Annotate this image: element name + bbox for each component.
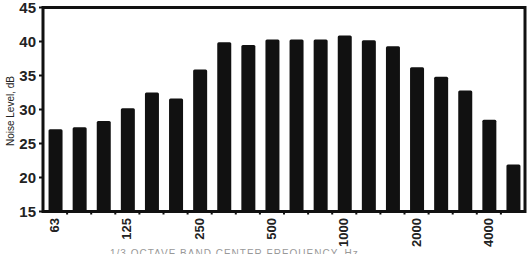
y-tick-label: 30 xyxy=(0,102,36,117)
x-tick-label: 63 xyxy=(48,218,62,254)
y-tick-label: 15 xyxy=(0,204,36,219)
bar xyxy=(73,127,87,211)
bar xyxy=(217,42,231,211)
plot-frame xyxy=(43,8,525,212)
bar xyxy=(458,90,472,211)
x-tick-label: 4000 xyxy=(482,218,496,254)
bar xyxy=(49,129,63,211)
bar xyxy=(338,35,352,211)
plot-area xyxy=(0,0,529,254)
y-tick-label: 40 xyxy=(0,34,36,49)
x-axis-title-text: 1/3 OCTAVE BAND CENTER FREQUENCY, Hz xyxy=(110,249,450,254)
bar xyxy=(241,45,255,212)
noise-level-bar-chart: Noise Level, dB 15202530354045 631252505… xyxy=(0,0,529,254)
bar xyxy=(121,108,135,211)
bar xyxy=(265,39,279,211)
bar xyxy=(482,120,496,212)
bar xyxy=(410,67,424,211)
bar xyxy=(314,39,328,211)
y-tick-label: 35 xyxy=(0,68,36,83)
bar xyxy=(386,46,400,211)
bar xyxy=(193,69,207,211)
y-tick-label: 25 xyxy=(0,136,36,151)
bar xyxy=(145,93,159,212)
bar xyxy=(434,77,448,212)
bar xyxy=(290,39,304,211)
bar xyxy=(97,121,111,211)
bar xyxy=(362,40,376,211)
y-tick-label: 45 xyxy=(0,0,36,15)
x-axis-title-truncated: 1/3 OCTAVE BAND CENTER FREQUENCY, Hz xyxy=(110,249,450,254)
bar xyxy=(506,165,520,212)
bar xyxy=(169,99,183,212)
y-tick-label: 20 xyxy=(0,170,36,185)
